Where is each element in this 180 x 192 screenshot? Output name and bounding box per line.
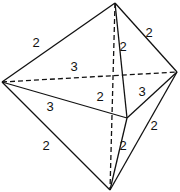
edge-left-right	[2, 72, 177, 82]
edge-label: 2	[119, 39, 126, 54]
edge-label: 3	[70, 59, 77, 74]
edge-middle-bottom	[110, 118, 127, 190]
edge-label: 2	[32, 35, 39, 50]
edge-top-left	[2, 3, 115, 82]
edge-top-middle	[115, 3, 127, 118]
edge-label: 2	[150, 118, 157, 133]
edge-label: 2	[96, 89, 103, 104]
edge-label: 3	[46, 99, 53, 114]
edge-label: 2	[42, 138, 49, 153]
edge-middle-right	[127, 72, 177, 118]
edge-label: 3	[138, 84, 145, 99]
edge-top-bottom	[110, 3, 115, 190]
polyhedron-diagram: 2222333222	[0, 0, 180, 192]
edge-label: 2	[145, 25, 152, 40]
edge-label: 2	[119, 138, 126, 153]
